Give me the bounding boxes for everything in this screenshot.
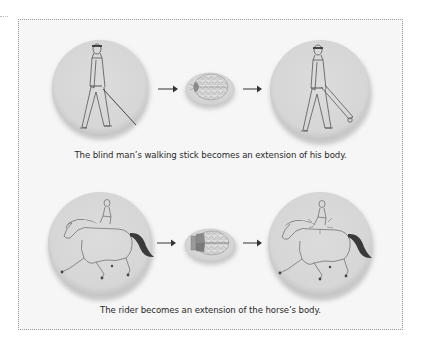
arrow-3 [157,240,176,247]
rider-before-image [48,192,154,301]
arrow-2 [243,86,262,93]
brain-oval-1 [185,73,235,109]
arrow-4 [243,240,262,247]
brain-oval-2 [185,229,237,265]
row-rider [48,192,374,301]
blind-man-before-image [52,40,150,140]
caption-rider: The rider becomes an extension of the ho… [18,305,403,315]
caption-blind-man: The blind man’s walking stick becomes an… [18,150,403,160]
row-blind-man [52,40,372,145]
blind-man-after-image [270,40,372,145]
figure-diagram [0,0,423,347]
arrow-1 [158,86,178,93]
rider-after-image [268,192,374,301]
brain-horse-region [196,233,205,243]
